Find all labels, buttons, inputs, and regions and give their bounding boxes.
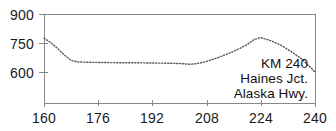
y-axis-label-900: 900 (0, 7, 34, 23)
x-axis-label-192: 192 (132, 110, 172, 126)
y-axis-label-750: 750 (0, 36, 34, 52)
annotation-line-place: Haines Jct. (175, 71, 308, 86)
x-axis-label-224: 224 (241, 110, 281, 126)
chart-figure: 900 750 600 160 176 192 208 224 240 KM 2… (0, 0, 336, 131)
x-axis-label-208: 208 (187, 110, 227, 126)
y-axis-label-600: 600 (0, 65, 34, 81)
annotation-line-highway: Alaska Hwy. (175, 86, 308, 101)
x-axis-label-240: 240 (295, 110, 335, 126)
x-axis-label-176: 176 (78, 110, 118, 126)
x-axis-label-160: 160 (24, 110, 64, 126)
annotation-line-km: KM 240 (175, 56, 308, 71)
